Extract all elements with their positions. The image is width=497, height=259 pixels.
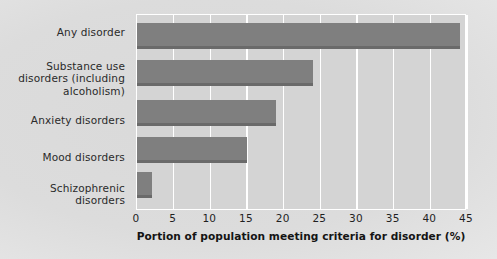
x-tick-label: 30 <box>349 212 363 224</box>
bar <box>137 172 152 198</box>
category-label-line: disorders (including <box>18 72 125 84</box>
x-axis-title: Portion of population meeting criteria f… <box>136 230 466 242</box>
x-tick-label: 25 <box>312 212 326 224</box>
category-label-line: Substance use <box>46 60 125 72</box>
x-tick-label: 0 <box>133 212 140 224</box>
x-tick-label: 5 <box>169 212 176 224</box>
category-label-line: Anxiety disorders <box>31 114 125 126</box>
category-label-any-disorder: Any disorder <box>1 26 125 38</box>
bar <box>137 60 313 86</box>
category-label-line: Schizophrenic <box>50 182 125 194</box>
x-tick-label: 45 <box>459 212 473 224</box>
bar <box>137 23 460 49</box>
category-label-substance-use-disorders: Substance use disorders (including alcoh… <box>1 60 125 97</box>
category-label-line: Mood disorders <box>42 151 125 163</box>
x-axis-tick-labels: 051015202530354045 <box>136 212 466 228</box>
x-tick-label: 15 <box>239 212 253 224</box>
x-tick-label: 40 <box>422 212 436 224</box>
category-label-schizophrenic-disorders: Schizophrenic disorders <box>1 182 125 207</box>
gridline <box>466 15 467 209</box>
x-tick-label: 10 <box>202 212 216 224</box>
plot-area <box>136 14 466 210</box>
category-label-line: disorders <box>75 194 125 206</box>
category-label-anxiety-disorders: Anxiety disorders <box>1 114 125 126</box>
x-tick-label: 35 <box>386 212 400 224</box>
bar-chart-figure: Any disorder Substance use disorders (in… <box>0 0 497 259</box>
bar <box>137 100 276 126</box>
x-tick-label: 20 <box>276 212 290 224</box>
category-label-line: Any disorder <box>57 26 125 38</box>
category-axis-labels: Any disorder Substance use disorders (in… <box>0 10 131 210</box>
category-label-mood-disorders: Mood disorders <box>1 151 125 163</box>
bar <box>137 137 247 163</box>
category-label-line: alcoholism) <box>63 85 125 97</box>
